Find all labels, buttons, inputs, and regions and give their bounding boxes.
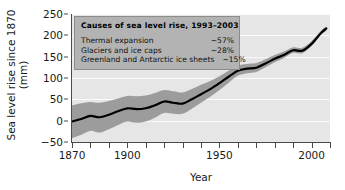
cause-label: Greenland and Antarctic ice sheets	[81, 55, 214, 65]
y-tick-mark	[64, 142, 68, 143]
y-tick-label: 200	[43, 29, 63, 41]
causes-title: Causes of sea level rise, 1993–2003	[81, 21, 234, 30]
x-tick-mark	[238, 143, 239, 148]
x-tick-mark	[90, 143, 91, 148]
y-axis-ticks: −50050100150200250	[30, 0, 68, 150]
x-tick-mark	[293, 143, 294, 148]
x-tick-label: 1870	[59, 149, 86, 161]
y-tick-mark	[64, 78, 68, 79]
x-tick-mark	[183, 143, 184, 148]
x-tick-mark	[127, 143, 128, 148]
y-tick-label: 0	[56, 115, 63, 127]
y-tick-label: −50	[41, 136, 63, 148]
x-tick-mark	[312, 143, 313, 148]
cause-value: ~57%	[203, 36, 234, 46]
y-tick-label: 250	[43, 8, 63, 20]
y-tick-label: 50	[50, 93, 63, 105]
x-tick-mark	[256, 143, 257, 148]
x-tick-mark	[275, 143, 276, 148]
cause-label: Glaciers and ice caps	[81, 46, 162, 56]
cause-label: Thermal expansion	[81, 36, 154, 46]
y-tick-mark	[64, 56, 68, 57]
y-tick-label: 150	[43, 51, 63, 63]
x-axis-title: Year	[72, 171, 330, 183]
x-tick-mark	[219, 143, 220, 148]
y-axis-title-line2: (mm)	[17, 9, 29, 140]
cause-row: Glaciers and ice caps~28%	[81, 46, 234, 56]
y-tick-mark	[64, 120, 68, 121]
x-tick-mark	[72, 143, 73, 148]
x-tick-mark	[201, 143, 202, 148]
x-axis-ticks: 1870190019502000	[72, 143, 330, 173]
y-tick-mark	[64, 14, 68, 15]
y-tick-label: 100	[43, 72, 63, 84]
y-tick-mark	[64, 99, 68, 100]
cause-row: Greenland and Antarctic ice sheets~15%	[81, 55, 234, 65]
y-axis-title-line1: Sea level rise since 1870	[5, 9, 17, 140]
x-tick-mark	[109, 143, 110, 148]
sea-level-rise-chart: Sea level rise since 1870 (mm) −50050100…	[0, 0, 345, 190]
y-tick-mark	[64, 35, 68, 36]
x-tick-mark	[146, 143, 147, 148]
x-tick-label: 1950	[206, 149, 233, 161]
cause-value: ~28%	[203, 46, 234, 56]
x-tick-label: 2000	[298, 149, 325, 161]
causes-rows: Thermal expansion~57%Glaciers and ice ca…	[81, 36, 234, 65]
causes-annotation-box: Causes of sea level rise, 1993–2003 Ther…	[74, 16, 240, 70]
x-tick-mark	[330, 143, 331, 148]
x-tick-mark	[164, 143, 165, 148]
cause-row: Thermal expansion~57%	[81, 36, 234, 46]
x-tick-label: 1900	[114, 149, 141, 161]
cause-value: ~15%	[214, 55, 245, 65]
y-axis-title: Sea level rise since 1870 (mm)	[0, 0, 34, 150]
